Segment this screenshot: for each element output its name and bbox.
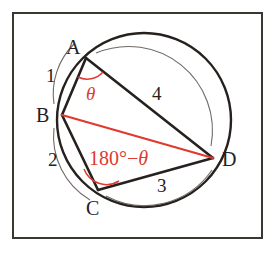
supplement-prefix: 180°−	[89, 147, 138, 169]
diagram-canvas	[0, 0, 277, 253]
arc-label-1: 1	[46, 66, 56, 85]
angle-arc-theta	[78, 72, 103, 79]
arc-label-2: 2	[48, 150, 58, 169]
vertex-label-d: D	[222, 149, 236, 169]
vertex-label-c: C	[86, 198, 99, 218]
arc-label-3: 3	[157, 176, 167, 195]
arc-label-4: 4	[152, 84, 162, 103]
chord-AD	[86, 58, 213, 158]
supplement-theta: θ	[138, 147, 148, 169]
angle-label-theta: θ	[86, 84, 95, 103]
vertex-label-b: B	[36, 105, 49, 125]
geometry-figure: A B C D 1 2 3 4 θ 180°−θ	[0, 0, 277, 253]
vertex-label-a: A	[66, 37, 80, 57]
angle-label-supplement: 180°−θ	[89, 148, 148, 168]
